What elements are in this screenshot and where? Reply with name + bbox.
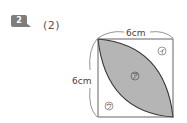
left-dimension-label: 6cm	[72, 76, 91, 86]
top-dimension-label: 6cm	[126, 28, 145, 38]
top-dimension-brace-left	[98, 32, 124, 38]
geometry-figure: 6cm 6cm イ ア ウ	[0, 0, 187, 123]
region-label-i: イ	[159, 47, 165, 54]
region-label-a: ア	[132, 72, 138, 79]
left-dimension-brace-top	[90, 39, 97, 70]
top-dimension-brace-right	[150, 32, 173, 38]
region-label-u: ウ	[106, 102, 112, 109]
left-dimension-brace-bottom	[90, 88, 97, 117]
